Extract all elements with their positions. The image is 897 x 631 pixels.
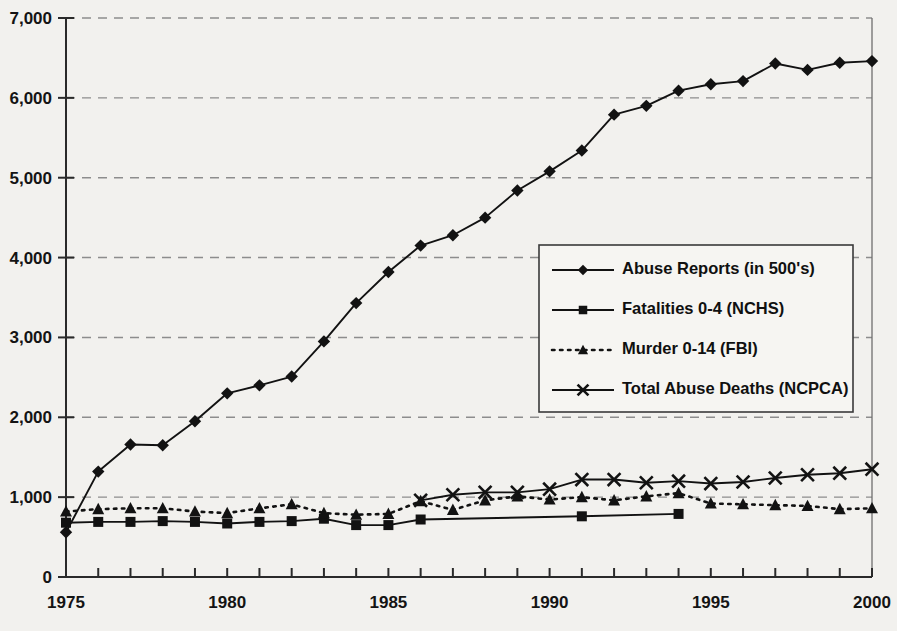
square-marker bbox=[351, 520, 361, 530]
legend-item-label: Abuse Reports (in 500's) bbox=[622, 259, 815, 277]
triangle-marker bbox=[221, 507, 233, 518]
diamond-marker bbox=[705, 78, 717, 90]
triangle-marker bbox=[124, 502, 136, 513]
triangle-marker bbox=[866, 502, 878, 513]
square-marker bbox=[125, 517, 135, 527]
diamond-marker bbox=[447, 229, 459, 241]
chart-legend: Abuse Reports (in 500's)Fatalities 0-4 (… bbox=[539, 245, 853, 412]
y-axis-tick-label: 3,000 bbox=[9, 328, 52, 347]
x-axis bbox=[66, 568, 872, 577]
diamond-marker bbox=[543, 165, 555, 177]
y-axis-tick-label: 5,000 bbox=[9, 169, 52, 188]
chart-container: 01,0002,0003,0004,0005,0006,0007,000 197… bbox=[0, 0, 897, 631]
y-axis-tick-label: 0 bbox=[43, 568, 52, 587]
square-marker bbox=[579, 306, 588, 315]
diamond-marker bbox=[834, 57, 846, 69]
legend-item-label: Fatalities 0-4 (NCHS) bbox=[622, 299, 784, 317]
data-series bbox=[60, 487, 878, 520]
triangle-marker bbox=[60, 505, 72, 516]
square-marker bbox=[254, 517, 264, 527]
diamond-marker bbox=[672, 84, 684, 96]
diamond-marker bbox=[60, 526, 72, 538]
triangle-marker bbox=[189, 505, 201, 516]
diamond-marker bbox=[769, 57, 781, 69]
square-marker bbox=[158, 516, 168, 526]
square-marker bbox=[416, 515, 426, 525]
diamond-marker bbox=[801, 64, 813, 76]
x-axis-tick-labels: 197519801985199019952000 bbox=[47, 593, 891, 612]
diamond-marker bbox=[737, 75, 749, 87]
triangle-marker bbox=[253, 502, 265, 513]
square-marker bbox=[222, 518, 232, 528]
square-marker bbox=[93, 517, 103, 527]
y-axis-tick-labels: 01,0002,0003,0004,0005,0006,0007,000 bbox=[9, 9, 52, 587]
series-path bbox=[66, 493, 872, 515]
x-axis-tick-label: 1975 bbox=[47, 593, 85, 612]
triangle-marker bbox=[286, 498, 298, 509]
diamond-marker bbox=[253, 379, 265, 391]
legend-item-label: Total Abuse Deaths (NCPCA) bbox=[622, 379, 848, 397]
x-axis-tick-label: 1995 bbox=[692, 593, 730, 612]
square-marker bbox=[287, 516, 297, 526]
y-axis-tick-label: 7,000 bbox=[9, 9, 52, 28]
data-series bbox=[61, 509, 684, 530]
y-axis-tick-label: 4,000 bbox=[9, 249, 52, 268]
diamond-marker bbox=[866, 55, 878, 67]
x-axis-tick-label: 1985 bbox=[369, 593, 407, 612]
x-axis-tick-label: 1990 bbox=[531, 593, 569, 612]
square-marker bbox=[61, 518, 71, 528]
square-marker bbox=[674, 509, 684, 519]
square-marker bbox=[383, 520, 393, 530]
legend-item-label: Murder 0-14 (FBI) bbox=[622, 339, 758, 357]
line-chart: 01,0002,0003,0004,0005,0006,0007,000 197… bbox=[0, 0, 897, 631]
square-marker bbox=[577, 511, 587, 521]
square-marker bbox=[190, 517, 200, 527]
x-axis-tick-label: 2000 bbox=[853, 593, 891, 612]
triangle-marker bbox=[157, 502, 169, 513]
diamond-marker bbox=[640, 100, 652, 112]
triangle-marker bbox=[92, 503, 104, 514]
x-axis-tick-label: 1980 bbox=[208, 593, 246, 612]
y-axis bbox=[58, 18, 74, 577]
y-axis-tick-label: 2,000 bbox=[9, 408, 52, 427]
y-axis-tick-label: 1,000 bbox=[9, 488, 52, 507]
triangle-marker bbox=[447, 504, 459, 515]
y-axis-tick-label: 6,000 bbox=[9, 89, 52, 108]
